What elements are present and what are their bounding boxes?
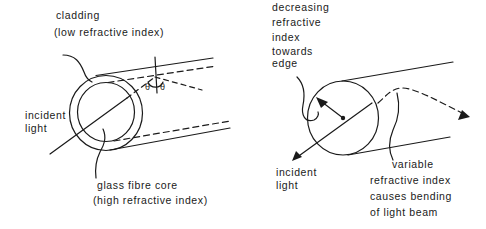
decreasing-index-label: decreasing [272,0,329,14]
theta-reflection-label: θ [160,80,166,94]
bending-light-path [378,88,462,113]
theta-incidence-label: θ [145,80,151,94]
decreasing-index-label-line2: refractive [272,15,321,29]
radius-arrowhead-icon [316,97,328,108]
step-index-fibre [50,55,230,178]
graded-index-fibre [296,62,462,160]
decreasing-index-label-line3: index [272,30,300,44]
graded-fibre-top-edge [342,62,453,81]
variable-index-label-line2: refractive index [370,173,451,187]
core-description: (high refractive index) [93,193,208,207]
incident-light-label-right-line2: light [276,178,298,192]
variable-index-label-line3: causes bending [370,189,452,203]
incident-arrowhead-icon [292,151,302,161]
ray-in-core [127,77,155,98]
incident-light-label: incident [25,108,66,122]
variable-leader [390,93,399,160]
incident-light-label-right: incident [276,165,317,179]
cladding-description: (low refractive index) [54,25,164,39]
variable-index-label-line4: of light beam [370,205,438,219]
fibre-top-edge [96,58,213,76]
core-label: glass fibre core [97,178,178,192]
cladding-label: cladding [56,8,100,22]
center-dot [341,116,345,120]
graded-fibre-bottom-edge [348,137,450,155]
core-leader [96,129,105,178]
variable-index-label: variable [392,157,434,171]
incident-light-label-line2: light [25,121,47,135]
cladding-leader [63,55,92,82]
core-inner-circle [78,83,135,142]
decreasing-index-label-line5: edge [272,56,298,70]
